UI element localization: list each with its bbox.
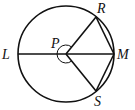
circle-diagram: L M R S P: [0, 0, 135, 110]
radius-ps: [66, 54, 96, 91]
label-s: S: [94, 94, 101, 109]
chord-ms: [96, 54, 114, 91]
geometry-figure: L M R S P: [0, 0, 135, 110]
label-m: M: [116, 47, 130, 62]
label-p: P: [50, 36, 60, 51]
label-l: L: [1, 47, 10, 62]
label-r: R: [96, 1, 106, 16]
radius-pr: [66, 17, 96, 54]
chord-rm: [96, 17, 114, 54]
